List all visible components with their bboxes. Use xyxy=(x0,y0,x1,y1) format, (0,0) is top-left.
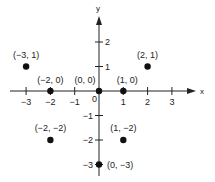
y-axis-arrow-icon xyxy=(96,16,102,25)
x-tick-label: −3 xyxy=(21,97,31,107)
data-point xyxy=(144,63,150,69)
point-label: (2, 1) xyxy=(137,50,158,60)
point-label: (−2, 0) xyxy=(37,75,63,85)
coordinate-plane: x y −3−2−1012321−1−2−3 (−3, 1)(−2, 0)(0,… xyxy=(0,0,215,182)
data-point xyxy=(23,63,29,69)
y-axis-label: y xyxy=(96,4,100,13)
x-tick-label: 1 xyxy=(121,97,126,107)
point-label: (1, −2) xyxy=(110,123,136,133)
data-point xyxy=(96,88,102,94)
x-tick-label: 3 xyxy=(169,97,174,107)
origin-label: 0 xyxy=(92,94,97,104)
x-tick-label: 2 xyxy=(145,97,150,107)
y-tick-label: 1 xyxy=(105,62,110,72)
x-axis-arrow-icon xyxy=(187,88,196,94)
point-label: (1, 0) xyxy=(117,75,138,85)
data-point xyxy=(47,88,53,94)
x-tick-label: −1 xyxy=(70,97,80,107)
point-label: (0, −3) xyxy=(107,160,133,170)
data-point xyxy=(47,137,53,143)
y-tick-label: −3 xyxy=(83,160,93,170)
point-label: (0, 0) xyxy=(74,75,95,85)
data-point xyxy=(120,137,126,143)
x-axis-label: x xyxy=(200,87,204,96)
data-point xyxy=(96,161,102,167)
point-label: (−3, 1) xyxy=(13,50,39,60)
y-tick-label: 2 xyxy=(105,37,110,47)
y-tick-label: −1 xyxy=(83,111,93,121)
data-point xyxy=(120,88,126,94)
axes: x y xyxy=(10,4,204,176)
data-points: (−3, 1)(−2, 0)(0, 0)(1, 0)(2, 1)(−2, −2)… xyxy=(13,50,158,170)
point-label: (−2, −2) xyxy=(35,123,67,133)
x-tick-label: −2 xyxy=(45,97,55,107)
y-tick-label: −2 xyxy=(83,135,93,145)
